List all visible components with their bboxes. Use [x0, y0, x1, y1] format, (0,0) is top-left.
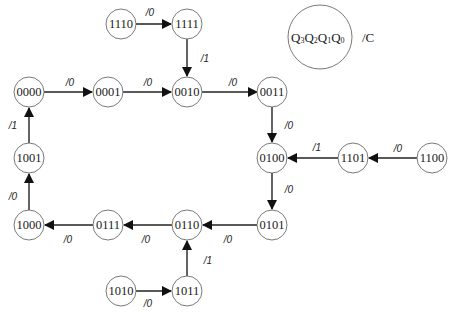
edge-label-1010-1011: /0 [143, 298, 153, 309]
state-label: 1011 [175, 284, 200, 298]
state-0010: 0010 [172, 77, 202, 107]
state-label: 0010 [175, 85, 200, 99]
state-label: 0001 [96, 85, 121, 99]
state-label: 1111 [175, 17, 199, 31]
edge-label-0000-0001: /0 [65, 77, 75, 88]
edge-label-1000-1001: /0 [8, 191, 18, 202]
state-1100: 1100 [417, 143, 447, 173]
edge-label-1110-1111: /0 [145, 7, 155, 18]
edge-label-1001-0000: /1 [8, 120, 17, 131]
state-1000: 1000 [14, 210, 44, 240]
state-0100: 0100 [257, 143, 287, 173]
state-1010: 1010 [106, 276, 136, 306]
state-label: 1010 [109, 284, 134, 298]
edge-label-0010-0011: /0 [228, 77, 238, 88]
legend: Q3Q2Q1Q0 /C [288, 5, 374, 69]
state-0111: 0111 [93, 210, 123, 240]
state-0001: 0001 [93, 77, 123, 107]
state-label: 0100 [260, 151, 285, 165]
edge-label-0110-0111: /0 [141, 234, 151, 245]
legend-state-label: Q3Q2Q1Q0 [291, 30, 345, 45]
edge-label-1101-0100: /1 [312, 142, 321, 153]
state-label: 0110 [175, 218, 200, 232]
state-1110: 1110 [106, 9, 136, 39]
edge-label-1011-0110: /1 [203, 255, 212, 266]
edge-label-0011-0100: /0 [284, 120, 294, 131]
edge-label-0100-0101: /0 [284, 184, 294, 195]
state-label: 1101 [341, 151, 366, 165]
state-1101: 1101 [338, 143, 368, 173]
state-1011: 1011 [172, 276, 202, 306]
state-1111: 1111 [172, 9, 202, 39]
state-0110: 0110 [172, 210, 202, 240]
state-label: 0011 [260, 85, 285, 99]
state-label: 0101 [260, 218, 285, 232]
legend-output-label: /C [362, 30, 374, 45]
state-diagram: /0 /1 /0 /0 /0 /0 /0 /1 /0 /0 /0 /1 [0, 0, 457, 318]
state-label: 1001 [17, 151, 42, 165]
edge-label-1111-0010: /1 [200, 53, 209, 64]
edge-label-0001-0010: /0 [143, 77, 153, 88]
state-label: 1110 [109, 17, 133, 31]
state-label: 1000 [17, 218, 42, 232]
state-label: 0111 [96, 218, 120, 232]
state-label: 1100 [420, 151, 445, 165]
edge-label-1100-1101: /0 [393, 143, 403, 154]
state-1001: 1001 [14, 143, 44, 173]
state-0101: 0101 [257, 210, 287, 240]
edge-label-0111-1000: /0 [63, 234, 73, 245]
state-0011: 0011 [257, 77, 287, 107]
state-0000: 0000 [14, 77, 44, 107]
edge-label-0101-0110: /0 [223, 234, 233, 245]
state-label: 0000 [17, 85, 42, 99]
